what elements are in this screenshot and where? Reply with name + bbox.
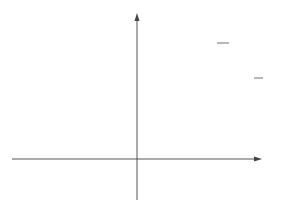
- area-between-curves-figure: [0, 0, 295, 205]
- x-axis-arrow-icon: [254, 157, 262, 162]
- y-axis-arrow-icon: [135, 13, 140, 21]
